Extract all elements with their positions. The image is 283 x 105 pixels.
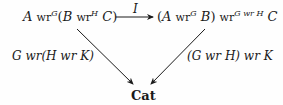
wr-op: wr	[76, 11, 91, 24]
wr-op: wr	[37, 11, 52, 24]
wr-op: wr	[176, 11, 191, 24]
symbol-c: C	[268, 9, 278, 24]
symbol-b: B	[201, 9, 211, 24]
node-top-left: A wrG(B wrH C)	[23, 9, 117, 26]
sup-g: G	[190, 9, 196, 18]
arrow-left-label: G wr(H wr K)	[12, 49, 94, 63]
node-cat: Cat	[131, 88, 156, 104]
sup-g-wr-h: G wr H	[234, 9, 263, 18]
symbol-c: C	[102, 9, 112, 24]
paren-close: )	[112, 9, 117, 24]
symbol-a: A	[23, 9, 32, 24]
symbol-b: B	[63, 9, 73, 24]
sup-h: H	[91, 9, 98, 18]
arrow-top-label: I	[133, 2, 138, 16]
wr-op: wr	[220, 11, 235, 24]
node-top-right: (A wrG B) wrG wr H C	[157, 9, 278, 26]
symbol-a: A	[162, 9, 171, 24]
label-right-text: (G wr H) wr K	[187, 49, 273, 63]
label-i: I	[133, 2, 138, 16]
arrow-right-label: (G wr H) wr K	[187, 49, 273, 63]
cat-label: Cat	[131, 88, 156, 103]
paren-close: )	[210, 9, 215, 24]
label-left-text: G wr(H wr K)	[12, 49, 94, 63]
